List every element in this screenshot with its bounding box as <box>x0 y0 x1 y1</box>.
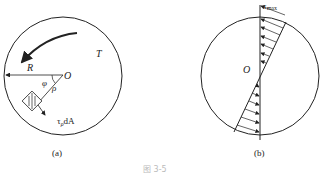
figure-caption: 图 3-5 <box>143 165 167 173</box>
stress-arrows-lower <box>237 85 259 132</box>
tau-max-label: τmax <box>263 1 277 11</box>
figure-b: O τmax (b) <box>201 1 319 158</box>
center-label-b: O <box>243 64 250 75</box>
figure-a: T R O φ ρ τρdA (a) <box>4 17 122 158</box>
stress-arrows-upper <box>261 19 283 63</box>
caption-b: (b) <box>254 148 265 158</box>
area-element <box>22 91 42 111</box>
force-label: τρdA <box>57 116 75 127</box>
radius-label: R <box>26 62 33 73</box>
figure: T R O φ ρ τρdA (a) O τmax (b) <box>0 0 320 173</box>
angle-label: φ <box>42 78 47 88</box>
torque-label: T <box>96 48 103 59</box>
center-label-a: O <box>64 70 71 81</box>
angle-arc <box>52 75 55 83</box>
caption-a: (a) <box>52 148 62 158</box>
shear-force-arrow <box>38 105 45 115</box>
torque-arrow <box>22 33 77 62</box>
rho-label: ρ <box>51 83 57 93</box>
diagram-canvas: T R O φ ρ τρdA (a) O τmax (b) <box>0 0 320 173</box>
